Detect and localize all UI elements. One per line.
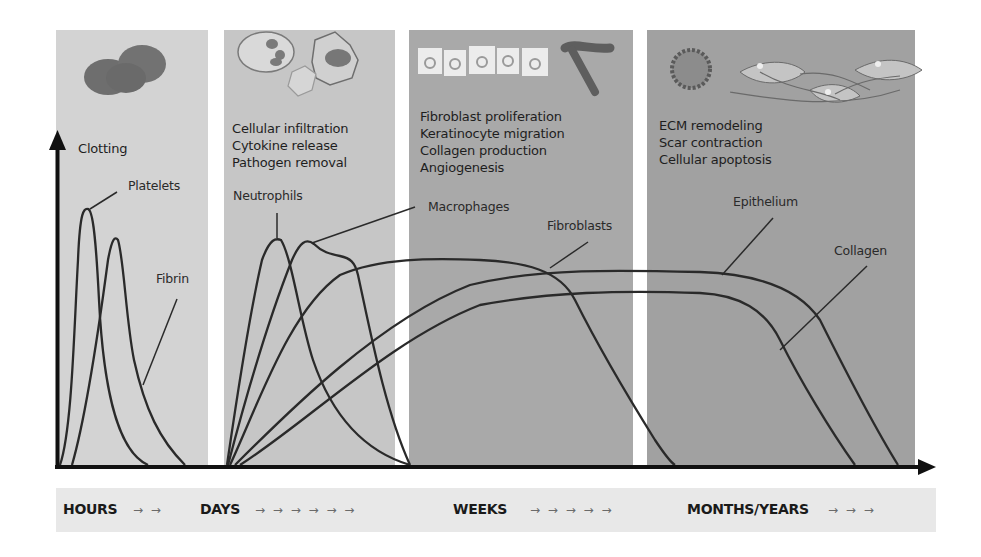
leader-epithelium <box>722 218 773 275</box>
timeline-arrows-weeks: → → → → → <box>530 503 614 517</box>
phase-title-clotting: Clotting <box>78 140 127 157</box>
curve-neutrophils <box>227 239 410 465</box>
wound-healing-diagram: Clotting Cellular infiltration Cytokine … <box>0 0 981 557</box>
timeline-days: DAYS <box>200 501 240 517</box>
label-neutrophils: Neutrophils <box>233 188 303 203</box>
phase-remodeling-line-1: ECM remodeling <box>659 117 762 134</box>
phase-inflammation-line-2: Cytokine release <box>232 137 338 154</box>
phase-remodeling-line-2: Scar contraction <box>659 134 762 151</box>
timeline-arrows-days: → → → → → → <box>255 503 356 517</box>
leader-platelets <box>90 192 117 209</box>
curve-collagen <box>240 292 855 465</box>
label-fibroblasts: Fibroblasts <box>547 218 612 233</box>
blood-vessel-icon <box>565 46 610 92</box>
label-fibrin: Fibrin <box>156 271 189 286</box>
ecm-vesicle-icon <box>672 50 710 88</box>
y-axis <box>49 130 66 468</box>
label-macrophages: Macrophages <box>428 199 509 214</box>
leader-macrophages <box>312 207 415 243</box>
y-axis-arrow-icon <box>49 130 66 150</box>
timeline-arrows-months: → → → <box>828 503 876 517</box>
leader-fibroblasts <box>550 242 588 268</box>
leader-collagen <box>780 266 867 350</box>
timeline-arrows-hours: → → <box>133 503 163 517</box>
x-axis <box>55 459 936 475</box>
timeline-hours: HOURS <box>63 501 117 517</box>
phase-proliferation-line-4: Angiogenesis <box>420 159 504 176</box>
curve-epithelium <box>235 271 898 465</box>
phase-remodeling-line-3: Cellular apoptosis <box>659 151 772 168</box>
leader-fibrin <box>143 299 177 385</box>
phase-inflammation-line-3: Pathogen removal <box>232 154 347 171</box>
timeline-months-years: MONTHS/YEARS <box>687 501 809 517</box>
label-collagen: Collagen <box>834 243 887 258</box>
diagram-graphics <box>0 0 981 557</box>
timeline-weeks: WEEKS <box>453 501 507 517</box>
fibroblast-network-icon <box>730 60 922 102</box>
phase-proliferation-line-1: Fibroblast proliferation <box>420 108 562 125</box>
x-axis-arrow-icon <box>918 459 936 475</box>
curve-platelets <box>60 209 148 465</box>
label-epithelium: Epithelium <box>733 194 798 209</box>
phase-proliferation-line-3: Collagen production <box>420 142 547 159</box>
immune-cells-icon <box>238 32 358 96</box>
label-platelets: Platelets <box>128 178 180 193</box>
phase-proliferation-line-2: Keratinocyte migration <box>420 125 565 142</box>
platelet-clot-icon <box>84 45 166 95</box>
curve-macrophages <box>228 241 410 465</box>
keratinocytes-icon <box>418 46 548 76</box>
phase-inflammation-line-1: Cellular infiltration <box>232 120 348 137</box>
